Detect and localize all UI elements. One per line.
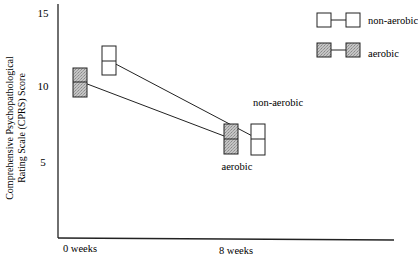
svg-text:aerobic: aerobic <box>368 48 399 59</box>
x-tick-labels: 0 weeks 8 weeks <box>63 243 253 256</box>
aerobic-line <box>82 82 232 139</box>
x-tick-8-weeks: 8 weeks <box>219 245 253 256</box>
y-tick-10: 10 <box>38 80 50 92</box>
y-tick-labels: 15 10 5 <box>38 7 50 168</box>
y-tick-5: 5 <box>40 156 46 168</box>
legend-item-non-aerobic: non-aerobic <box>317 13 418 27</box>
annotation-non-aerobic: non-aerobic <box>253 97 303 108</box>
y-tick-15: 15 <box>38 7 50 19</box>
y-axis-label: Comprehensive Psychopathological Rating … <box>4 56 28 200</box>
aerobic-markers <box>73 68 238 154</box>
svg-text:Comprehensive Psychopathologic: Comprehensive Psychopathological <box>4 56 15 200</box>
legend-item-aerobic: aerobic <box>317 43 399 59</box>
non-aerobic-markers <box>102 46 265 155</box>
chart: 15 10 5 Comprehensive Psychopathological… <box>0 0 418 269</box>
legend: non-aerobic aerobic <box>317 13 418 59</box>
x-tick-0-weeks: 0 weeks <box>63 243 97 254</box>
svg-text:non-aerobic: non-aerobic <box>368 15 418 26</box>
svg-text:Rating Scale (CPRS) Score: Rating Scale (CPRS) Score <box>16 73 28 183</box>
annotation-aerobic: aerobic <box>222 161 253 172</box>
